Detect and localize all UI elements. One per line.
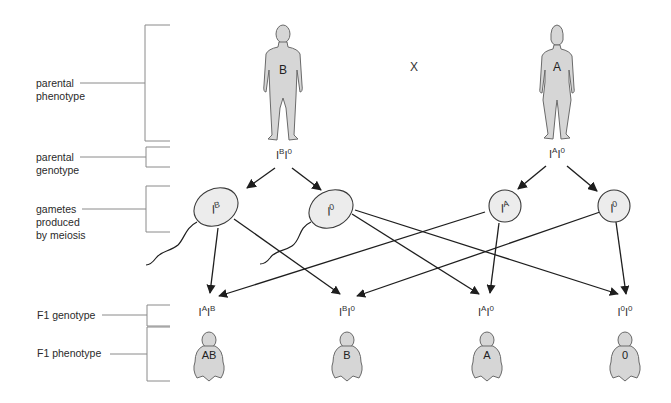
label-line: F1 genotype [37,309,95,322]
row-label-parental-genotype: parental genotype [36,151,79,177]
offspring-phenotype-AB: AB [202,349,217,361]
label-line: parental [36,151,79,164]
sperm-tail-IB [146,222,197,265]
cross-symbol: X [410,60,418,74]
offspring-phenotype-A: A [483,349,491,361]
row-label-parental-phenotype: parental phenotype [36,77,85,103]
father-phenotype-label: B [279,63,287,77]
line-I0-to-I0I0 [355,210,618,294]
offspring-genotype-IAI0: IAI0 [478,306,494,318]
label-line: by meiosis [36,229,86,242]
line-IB-to-IBI0 [234,219,340,294]
meiosis-arrows [247,166,597,191]
sperm-tails [146,222,311,265]
label-line: F1 phenotype [37,347,101,360]
arrow-mother-to-I0 [567,166,597,191]
offspring-phenotype-B: B [343,349,350,361]
line-IB-to-IAIB [210,228,218,293]
row-label-f1-phenotype: F1 phenotype [37,347,101,360]
offspring-genotype-IBI0: IBI0 [339,306,355,318]
offspring-genotype-IAIB: IAIB [199,306,216,318]
mother-phenotype-label: A [553,60,561,74]
line-IA-to-IAIB [219,212,485,296]
father-genotype: IBI0 [276,149,292,161]
row-label-f1-genotype: F1 genotype [37,309,95,322]
bracket-parental-phenotype [80,25,170,141]
label-line: gametes [36,203,86,216]
mother-genotype: IAI0 [549,148,565,160]
bracket-f1-genotype [102,305,170,326]
abo-blood-type-inheritance-diagram: B A [0,0,671,403]
line-I0mother-to-I0I0 [616,222,626,294]
offspring-figures: AB B A 0 [194,332,640,381]
line-I0mother-to-IBI0 [357,212,600,296]
father-figure-icon: B [264,25,303,140]
label-line: produced [36,216,86,229]
row-label-gametes: gametes produced by meiosis [36,203,86,242]
mother-figure-icon: A [540,25,575,139]
fertilization-lines [210,210,626,296]
offspring-phenotype-0: 0 [622,349,628,361]
diagram-canvas: B A [0,0,671,403]
row-brackets [80,25,170,381]
label-line: genotype [36,164,79,177]
arrow-mother-to-IA [518,166,546,189]
label-line: phenotype [36,90,85,103]
bracket-f1-phenotype [110,327,170,381]
bracket-parental-genotype [80,147,170,167]
line-IA-to-IAI0 [490,223,499,293]
label-line: parental [36,77,85,90]
arrow-father-to-IB [247,168,275,188]
bracket-gametes [82,186,170,232]
offspring-genotype-I0I0: I0I0 [617,306,632,318]
line-I0-to-IAI0 [352,214,479,294]
arrow-father-to-I0 [292,168,321,190]
